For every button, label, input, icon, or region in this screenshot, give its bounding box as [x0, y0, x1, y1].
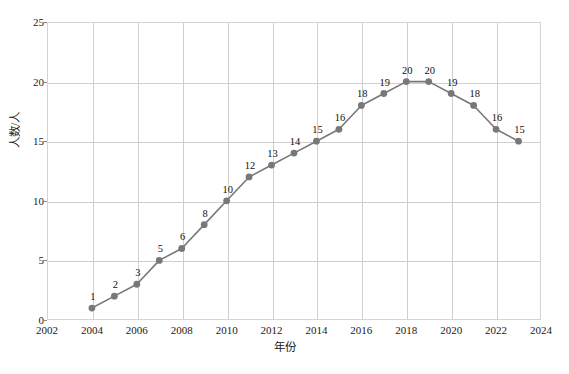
y-axis-tick-label: 10: [14, 195, 44, 207]
grid-line-horizontal: [48, 83, 540, 84]
y-axis-title: 人数/人: [6, 112, 22, 148]
x-axis-tick-label: 2020: [429, 324, 473, 336]
data-point-value-label: 18: [469, 88, 480, 99]
data-point-value-label: 3: [135, 267, 140, 278]
grid-line-vertical: [273, 23, 274, 319]
x-axis-tick-label: 2018: [384, 324, 428, 336]
data-point-value-label: 16: [335, 112, 346, 123]
x-axis-tick-label: 2008: [160, 324, 204, 336]
data-point-value-label: 1: [90, 291, 95, 302]
data-point-value-label: 8: [203, 208, 208, 219]
data-point-value-label: 19: [380, 77, 391, 88]
data-point-value-label: 14: [290, 136, 301, 147]
data-point-value-label: 19: [447, 77, 458, 88]
grid-line-vertical: [317, 23, 318, 319]
x-axis-tick-label: 2014: [294, 324, 338, 336]
grid-line-vertical: [228, 23, 229, 319]
x-axis-tick-label: 2004: [70, 324, 114, 336]
y-axis-tick-mark: [43, 22, 47, 23]
data-point-value-label: 15: [312, 124, 323, 135]
data-point-value-label: 2: [113, 279, 118, 290]
grid-line-vertical: [93, 23, 94, 319]
data-point-value-label: 16: [492, 112, 503, 123]
x-axis-tick-label: 2022: [474, 324, 518, 336]
data-point-value-label: 6: [180, 231, 185, 242]
x-axis-tick-label: 2024: [519, 324, 563, 336]
data-point-value-label: 15: [514, 124, 525, 135]
y-axis-tick-label: 5: [14, 254, 44, 266]
data-point-value-label: 5: [158, 243, 163, 254]
y-axis-tick-mark: [43, 82, 47, 83]
y-axis-tick-label: 20: [14, 76, 44, 88]
y-axis-tick-mark: [43, 320, 47, 321]
grid-line-vertical: [183, 23, 184, 319]
grid-line-vertical: [452, 23, 453, 319]
x-axis-tick-label: 2012: [250, 324, 294, 336]
grid-line-vertical: [497, 23, 498, 319]
data-point-value-label: 10: [222, 184, 233, 195]
grid-line-horizontal: [48, 261, 540, 262]
x-axis-title: 年份: [0, 338, 569, 354]
y-axis-tick-mark: [43, 141, 47, 142]
data-point-value-label: 18: [357, 88, 368, 99]
plot-area: [47, 22, 541, 320]
grid-line-vertical: [362, 23, 363, 319]
x-axis-tick-label: 2006: [115, 324, 159, 336]
y-axis-tick-mark: [43, 260, 47, 261]
y-axis-tick-label: 25: [14, 16, 44, 28]
data-point-value-label: 20: [424, 65, 435, 76]
data-point-value-label: 13: [267, 148, 278, 159]
data-point-value-label: 12: [245, 160, 256, 171]
grid-line-horizontal: [48, 202, 540, 203]
data-point-value-label: 20: [402, 65, 413, 76]
y-axis-tick-mark: [43, 201, 47, 202]
chart-figure: 0510152025200220042006200820102012201420…: [0, 0, 569, 374]
x-axis-tick-label: 2002: [25, 324, 69, 336]
x-axis-tick-label: 2016: [339, 324, 383, 336]
x-axis-tick-label: 2010: [205, 324, 249, 336]
